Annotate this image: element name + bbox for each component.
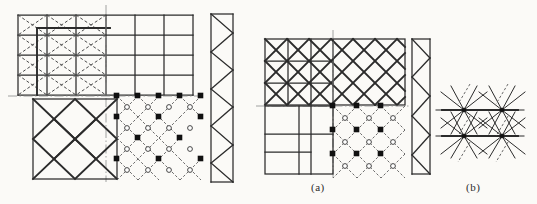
scheme-a-truss-profile: [412, 39, 430, 174]
scheme-a-diagonal-lattice: [265, 39, 405, 105]
scheme-a-plan-node-grid: [330, 103, 405, 178]
left-elevation: [18, 15, 193, 95]
left-plan-solid: [33, 99, 117, 179]
scheme-b-joint-detail: [436, 84, 525, 162]
scheme-a-plan-solid: [265, 106, 333, 174]
structural-diagram: .ln { stroke:#2b2b2b; stroke-width:1.25;…: [0, 0, 537, 204]
scheme-b-members: [441, 86, 525, 158]
figure-label-a: (a): [311, 181, 325, 193]
left-elevation-tie: [37, 28, 110, 95]
scheme-a-elevation: [265, 39, 405, 105]
scheme-a-plan-grid: [265, 106, 333, 174]
figure-canvas: .ln { stroke:#2b2b2b; stroke-width:1.25;…: [0, 0, 537, 204]
left-truss-profile: [211, 14, 233, 182]
figure-label-b: (b): [466, 181, 480, 193]
left-plan-diamond-lattice: [33, 99, 117, 179]
left-plan-node-grid: [114, 93, 203, 180]
